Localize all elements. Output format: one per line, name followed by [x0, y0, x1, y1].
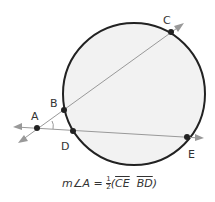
circle: [63, 23, 205, 165]
arrowhead-icon: [174, 23, 184, 32]
arc-ce: CE: [115, 177, 130, 190]
point-c: [168, 29, 174, 35]
arrowhead-icon: [13, 123, 22, 130]
angle-mark: [52, 121, 53, 129]
label-c: C: [163, 14, 171, 27]
formula-prefix: m∠A =: [62, 177, 106, 190]
point-d: [70, 128, 76, 134]
label-e: E: [188, 148, 195, 161]
formula: m∠A = 12(CE BD): [62, 176, 157, 191]
label-b: B: [50, 97, 58, 110]
point-b: [61, 107, 67, 113]
secant-diagram: [0, 0, 215, 202]
label-a: A: [31, 110, 39, 123]
arc-bd: BD: [137, 177, 153, 190]
point-a: [34, 125, 40, 131]
point-e: [184, 134, 190, 140]
label-d: D: [61, 140, 69, 153]
arrowhead-icon: [195, 134, 204, 141]
